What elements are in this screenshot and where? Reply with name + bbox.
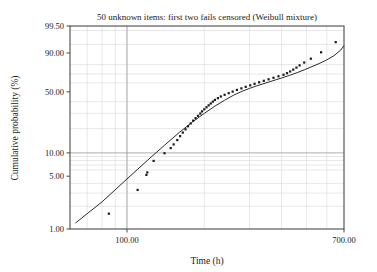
- y-tick-label: 5.00: [49, 171, 64, 181]
- x-axis-title: Time (h): [190, 256, 223, 267]
- y-axis-title: Cumulative probability (%): [10, 75, 21, 180]
- y-tick-label: 50.00: [45, 87, 64, 97]
- chart-svg: 50 unknown items: first two fails censor…: [0, 0, 377, 272]
- y-tick-label: 10.00: [45, 148, 64, 158]
- y-tick-label: 99.50: [45, 21, 64, 31]
- y-tick-label: 90.00: [45, 48, 64, 58]
- y-tick-label: 1.00: [49, 224, 64, 234]
- x-tick-label: 700.00: [332, 235, 355, 245]
- probability-plot-chart: 50 unknown items: first two fails censor…: [0, 0, 377, 272]
- chart-title: 50 unknown items: first two fails censor…: [97, 12, 317, 22]
- x-tick-label: 100.00: [115, 235, 138, 245]
